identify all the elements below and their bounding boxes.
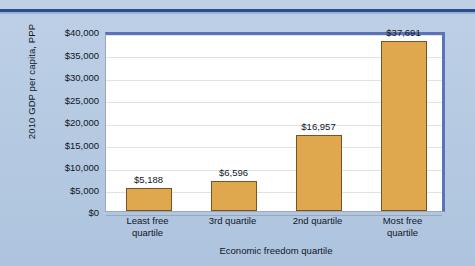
x-axis-category-label: 2nd quartile xyxy=(275,215,360,227)
x-axis-category-label-line: quartile xyxy=(105,227,190,239)
x-axis-category-labels: Least freequartile3rd quartile2nd quarti… xyxy=(105,215,445,245)
bar-value-label: $37,691 xyxy=(355,27,453,38)
bar xyxy=(211,181,257,211)
y-axis-title: 2010 GDP per capita, PPP xyxy=(26,2,37,162)
top-divider-rule-highlight xyxy=(0,12,475,14)
bar-value-label: $16,957 xyxy=(270,121,368,132)
y-axis-tick-label: $35,000 xyxy=(65,49,99,60)
bar-group: $5,188 xyxy=(126,35,172,211)
x-axis-category-label: Least freequartile xyxy=(105,215,190,238)
x-axis-category-label-line: 3rd quartile xyxy=(190,215,275,227)
y-axis-tick-label: $40,000 xyxy=(65,27,99,38)
y-axis-tick-label: $10,000 xyxy=(65,162,99,173)
chart-figure: 2010 GDP per capita, PPP $0$5,000$10,000… xyxy=(0,0,475,266)
plot-area: $5,188$6,596$16,957$37,691 xyxy=(105,32,445,212)
y-axis-tick-label: $25,000 xyxy=(65,94,99,105)
bar-value-label: $5,188 xyxy=(100,174,198,185)
x-axis-category-label: 3rd quartile xyxy=(190,215,275,227)
bar xyxy=(126,188,172,211)
x-axis-category-label-line: 2nd quartile xyxy=(275,215,360,227)
y-axis-tick-label: $0 xyxy=(88,207,99,218)
bar-value-label: $6,596 xyxy=(185,167,283,178)
x-axis-category-label-line: Most free xyxy=(360,215,445,227)
y-axis-tick-labels: $0$5,000$10,000$15,000$20,000$25,000$30,… xyxy=(44,32,102,212)
x-axis-category-label-line: quartile xyxy=(360,227,445,239)
x-axis-title: Economic freedom quartile xyxy=(105,245,447,256)
bars: $5,188$6,596$16,957$37,691 xyxy=(106,35,442,211)
y-axis-tick-label: $15,000 xyxy=(65,139,99,150)
bar xyxy=(381,41,427,211)
y-axis-tick-label: $30,000 xyxy=(65,72,99,83)
y-axis-tick-label: $5,000 xyxy=(70,184,99,195)
bar-group: $16,957 xyxy=(296,35,342,211)
bar-group: $37,691 xyxy=(381,35,427,211)
bar-group: $6,596 xyxy=(211,35,257,211)
y-axis-tick-label: $20,000 xyxy=(65,117,99,128)
x-axis-category-label: Most freequartile xyxy=(360,215,445,238)
bar xyxy=(296,135,342,211)
x-axis-category-label-line: Least free xyxy=(105,215,190,227)
